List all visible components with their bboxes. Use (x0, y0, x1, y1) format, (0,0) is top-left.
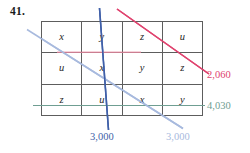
label-2060: 2,060 (207, 69, 231, 80)
cell-label: y (100, 32, 105, 43)
cell-label: x (59, 32, 64, 43)
grid-cell: z (163, 53, 203, 84)
grid-cell: z (42, 85, 82, 116)
grid-cell: u (163, 22, 203, 53)
cell-label: y (180, 95, 185, 106)
label-4030: 4,030 (207, 100, 231, 111)
label-3000-light-blue: 3,000 (166, 131, 190, 142)
label-3000-dark-blue: 3,000 (90, 131, 114, 142)
grid-cell: y (82, 22, 122, 53)
cell-label: z (140, 32, 144, 43)
cell-label: u (180, 32, 185, 43)
grid-cell: x (82, 53, 122, 84)
solution-grid: x y z u u x y z z u x y (41, 21, 203, 116)
grid-cell: y (163, 85, 203, 116)
cell-label: x (140, 95, 145, 106)
cell-label: z (180, 63, 184, 74)
cell-label: y (140, 63, 145, 74)
cell-label: z (60, 95, 64, 106)
grid-cell: u (42, 53, 82, 84)
grid-cell: z (123, 22, 163, 53)
grid-cell: x (123, 85, 163, 116)
diagram-canvas: 41. x y z u u x y z z u x y 2,060 4,0 (0, 0, 250, 153)
grid-cell: x (42, 22, 82, 53)
cell-label: u (99, 95, 104, 106)
grid-cell: y (123, 53, 163, 84)
cell-label: x (100, 63, 105, 74)
cell-label: u (59, 63, 64, 74)
grid-cell: u (82, 85, 122, 116)
